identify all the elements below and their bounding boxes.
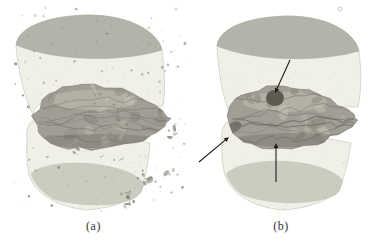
specimen-render-a — [0, 0, 187, 218]
panel-b: (b) — [187, 0, 375, 250]
small-artifact-ring — [338, 7, 342, 11]
top-cap-face — [217, 16, 359, 59]
top-cap-face — [16, 15, 162, 59]
figure-3d-specimen-comparison: (a) (b) — [0, 0, 375, 250]
panel-label-a: (a) — [86, 219, 101, 233]
specimen-render-b — [187, 0, 375, 218]
panel-label-b: (b) — [273, 219, 289, 233]
panel-a: (a) — [0, 0, 187, 250]
